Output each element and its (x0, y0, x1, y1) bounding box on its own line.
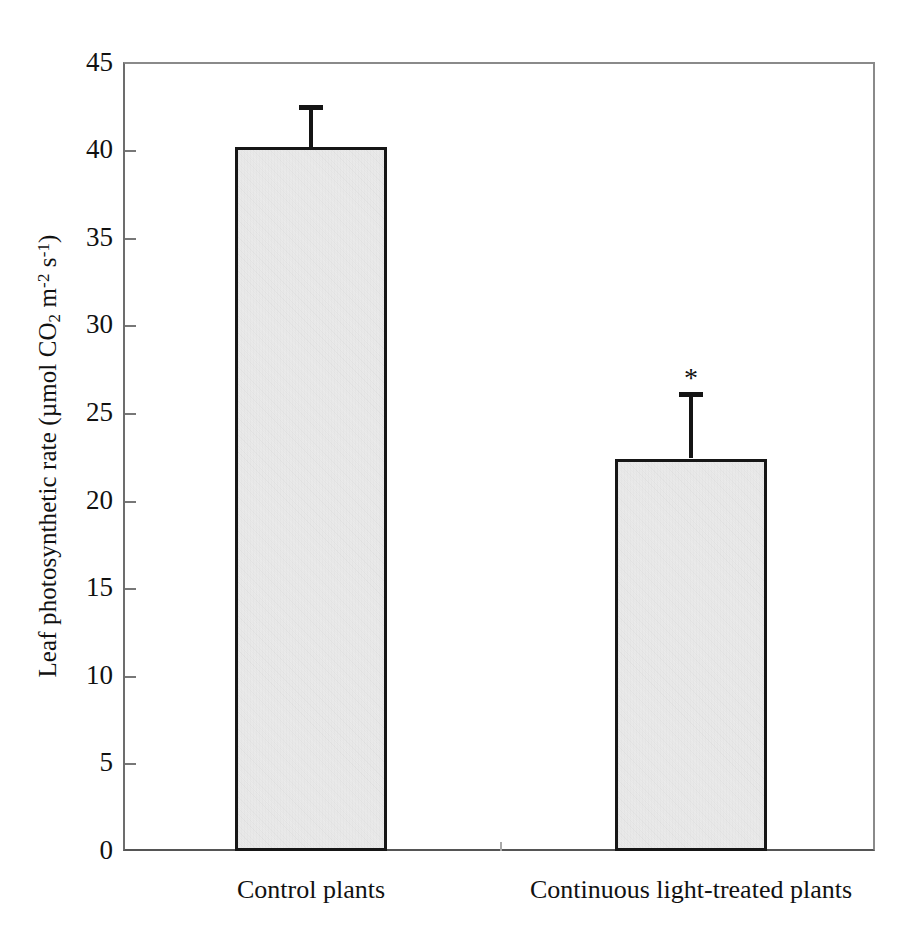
y-tick-mark (125, 150, 136, 152)
y-tick-label: 40 (27, 136, 113, 163)
y-tick-mark (125, 501, 136, 503)
y-tick-label: 20 (27, 487, 113, 514)
y-tick-mark (125, 676, 136, 678)
error-bar-whisker (689, 392, 693, 459)
y-tick-mark (125, 588, 136, 590)
y-tick-label: 10 (27, 662, 113, 689)
significance-asterisk: * (671, 364, 711, 392)
y-tick-mark (125, 238, 136, 240)
x-category-label: Continuous light-treated plants (441, 874, 920, 906)
y-tick-label: 35 (27, 224, 113, 251)
y-tick-label: 30 (27, 311, 113, 338)
y-tick-label: 45 (27, 49, 113, 76)
error-bar-whisker (309, 105, 313, 147)
error-bar-cap (299, 105, 323, 110)
y-tick-mark (125, 413, 136, 415)
bar (615, 459, 767, 851)
y-tick-label: 0 (27, 837, 113, 864)
figure-container: Leaf photosynthetic rate (µmol CO2 m-2 s… (0, 0, 920, 950)
y-tick-label: 25 (27, 399, 113, 426)
y-tick-mark (125, 325, 136, 327)
y-axis-tick-labels: 051015202530354045 (0, 0, 113, 950)
y-tick-label: 5 (27, 749, 113, 776)
x-tick-mark (500, 842, 502, 851)
bar (235, 147, 387, 851)
y-tick-mark (125, 763, 136, 765)
y-tick-label: 15 (27, 574, 113, 601)
